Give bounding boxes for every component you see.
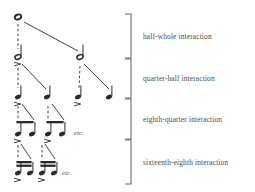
- note-quarter: [14, 86, 22, 106]
- branch-line: [45, 144, 55, 159]
- note-eighth: [14, 122, 22, 143]
- branch-line: [22, 64, 46, 89]
- note-beam: [40, 165, 55, 167]
- accent-mark-icon: [44, 139, 51, 143]
- etc-label-eighth-row: etc.: [74, 130, 84, 137]
- group-bracket: [125, 14, 131, 58]
- note-eighth: [28, 122, 35, 137]
- etc-label-sixteenth-row: etc.: [62, 170, 72, 177]
- note-beam: [16, 161, 31, 163]
- accent-mark-icon: [74, 102, 81, 106]
- group-bracket: [125, 140, 131, 184]
- whole-note-head: [14, 14, 22, 21]
- branch-line: [21, 144, 31, 159]
- note-half: [76, 45, 84, 61]
- note-symbols: [14, 14, 113, 182]
- note-eighth: [58, 122, 65, 137]
- note-half: [14, 45, 22, 66]
- accent-mark-icon: [14, 102, 21, 106]
- note-beam: [40, 161, 55, 163]
- group-bracket: [125, 99, 131, 139]
- note-sixteenth: [50, 162, 57, 176]
- accent-mark-icon: [14, 62, 21, 66]
- branch-line: [22, 104, 34, 120]
- beam-lines: [16, 121, 63, 167]
- branch-lines: [18, 22, 109, 159]
- accent-mark-icon: [14, 139, 21, 143]
- branch-line: [24, 22, 78, 51]
- branch-line: [84, 64, 109, 89]
- bracket-label-sixteenth-eighth: sixteenth-eighth interaction: [143, 159, 228, 166]
- note-whole: [14, 14, 22, 21]
- branch-line: [52, 104, 64, 120]
- bracket-shapes: [125, 14, 131, 184]
- note-beam: [16, 165, 31, 167]
- note-beam: [16, 121, 33, 123]
- group-bracket: [125, 59, 131, 98]
- figure-canvas: half-whole interaction quarter-half inte…: [0, 0, 255, 192]
- bracket-label-quarter-half: quarter-half interaction: [143, 75, 215, 82]
- note-quarter: [74, 86, 82, 106]
- note-sixteenth: [26, 162, 33, 176]
- note-beam: [46, 121, 63, 123]
- branch-line: [79, 66, 80, 88]
- accent-mark-icon: [38, 178, 45, 182]
- note-eighth: [44, 122, 52, 143]
- note-quarter: [105, 86, 112, 101]
- bracket-label-eighth-quarter: eighth-quarter interaction: [143, 116, 222, 123]
- bracket-label-half-whole: half-whole interaction: [143, 33, 212, 40]
- accent-mark-icon: [14, 178, 21, 182]
